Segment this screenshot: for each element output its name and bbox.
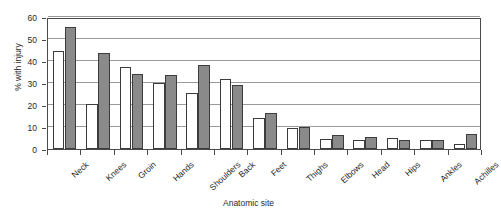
bar [165, 75, 177, 149]
x-tick-mark [214, 150, 215, 155]
bar [132, 74, 144, 149]
x-tick-mark [314, 150, 315, 155]
bar [432, 140, 444, 149]
y-tick-mark-50 [42, 40, 46, 41]
bar-group [449, 19, 482, 149]
bar [65, 27, 77, 149]
y-tick-mark-30 [42, 84, 46, 85]
x-tick-mark [347, 150, 348, 155]
x-tick-mark [114, 150, 115, 155]
bar [53, 51, 65, 149]
x-tick-mark [247, 150, 248, 155]
bar-group [282, 19, 315, 149]
y-tick-mark-20 [42, 106, 46, 107]
bar [365, 137, 377, 149]
bar [420, 140, 432, 149]
x-tick-mark [47, 150, 48, 155]
bar-group [382, 19, 415, 149]
x-tick-mark [281, 150, 282, 155]
bar [299, 127, 311, 149]
x-tick-mark [381, 150, 382, 155]
bar-group [248, 19, 281, 149]
x-tick-mark [181, 150, 182, 155]
y-tick-label-0: 0 [15, 146, 37, 155]
x-tick-mark [448, 150, 449, 155]
bar [220, 79, 232, 149]
y-tick-label-50: 50 [15, 36, 37, 45]
y-tick-mark-40 [42, 62, 46, 63]
bar-group [115, 19, 148, 149]
y-tick-label-30: 30 [15, 80, 37, 89]
bar-group [148, 19, 181, 149]
bar [265, 113, 277, 149]
bar [454, 144, 466, 150]
y-tick-label-40: 40 [15, 58, 37, 67]
bar-group [81, 19, 114, 149]
x-axis-title: Anatomic site [0, 198, 497, 208]
gridline-60 [48, 16, 480, 17]
bar [153, 83, 165, 149]
bar [186, 93, 198, 149]
bar-group [348, 19, 381, 149]
bar-group [182, 19, 215, 149]
x-tick-mark [80, 150, 81, 155]
bar-group [315, 19, 348, 149]
y-tick-label-20: 20 [15, 102, 37, 111]
plot-area [47, 18, 481, 150]
y-tick-mark-0 [42, 150, 46, 151]
bar [332, 135, 344, 149]
x-tick-mark [147, 150, 148, 155]
bar [320, 139, 332, 149]
bar-series-container [48, 19, 480, 149]
bar [387, 138, 399, 149]
y-tick-mark-60 [42, 18, 46, 19]
bar [120, 67, 132, 150]
bar [86, 104, 98, 149]
bar-group [215, 19, 248, 149]
bar [466, 134, 478, 149]
bar-group [48, 19, 81, 149]
y-tick-mark-10 [42, 128, 46, 129]
bar [232, 85, 244, 149]
x-tick-mark [481, 150, 482, 155]
bar [98, 53, 110, 149]
bar [198, 65, 210, 149]
bar [287, 128, 299, 149]
bar [253, 118, 265, 149]
bar [353, 140, 365, 149]
bar-group [415, 19, 448, 149]
y-tick-label-60: 60 [15, 14, 37, 23]
y-tick-label-10: 10 [15, 124, 37, 133]
bar [399, 140, 411, 149]
x-tick-mark [414, 150, 415, 155]
